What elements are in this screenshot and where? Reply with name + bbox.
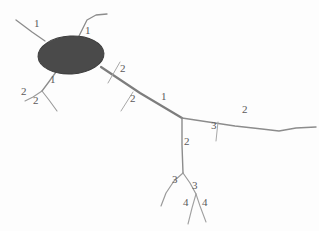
order-label-lower-branch-right: 3: [192, 180, 198, 191]
order-label-axon-trunk: 1: [161, 91, 167, 102]
neuron-tracing-svg: [0, 0, 319, 231]
order-label-terminal-left: 4: [183, 197, 189, 208]
order-label-branch-2a: 2: [21, 86, 27, 97]
order-label-axon-tick-lower: 2: [130, 93, 136, 104]
order-label-terminal-right: 4: [202, 197, 208, 208]
order-label-dendrite-top: 1: [85, 25, 91, 36]
order-label-descending-trunk: 2: [184, 136, 190, 147]
neuron-tracing-figure: 111222212323344: [0, 0, 319, 231]
order-label-right-branch-tick: 3: [211, 120, 217, 131]
order-label-dendrite-upper-left: 1: [34, 18, 40, 29]
order-label-branch-2b: 2: [33, 95, 39, 106]
order-label-axon-tick-upper: 2: [120, 63, 126, 74]
dendrite-lower-left-branch-b: [42, 91, 57, 111]
order-label-dendrite-lower-left-stem: 1: [50, 74, 56, 85]
order-label-lower-branch-left: 3: [172, 174, 178, 185]
soma: [37, 34, 105, 75]
dendrite-top: [78, 14, 107, 38]
axon-right-branch: [182, 118, 316, 131]
dendrite-upper-left: [16, 20, 45, 41]
soma-layer: [37, 34, 105, 75]
axon-descending-trunk: [182, 118, 183, 173]
order-label-right-branch: 2: [242, 104, 248, 115]
axon-terminal-branch-right: [188, 194, 196, 224]
